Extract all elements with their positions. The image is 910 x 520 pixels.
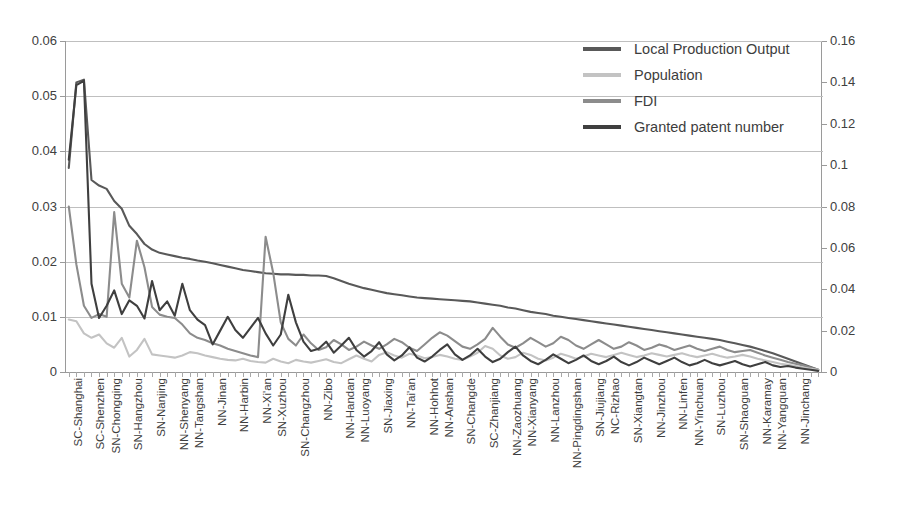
x-axis-tick-mark: [144, 372, 145, 377]
legend-label: Granted patent number: [634, 119, 784, 135]
series-line: [69, 320, 818, 370]
x-axis-baseline: [65, 372, 822, 373]
y-axis-left-tick-label: 0.04: [0, 144, 57, 157]
x-axis-tick-label: NN-Xi'an: [262, 378, 274, 424]
x-axis-tick-mark: [546, 372, 547, 377]
x-axis-tick-mark: [447, 372, 448, 377]
legend-color-swatch: [583, 47, 621, 51]
x-axis-tick-mark: [652, 372, 653, 377]
x-axis-tick-mark: [387, 372, 388, 377]
y-axis-right-tick-label: 0.16: [830, 34, 900, 47]
x-axis-tick-mark: [629, 372, 630, 377]
x-axis-tick-mark: [288, 372, 289, 377]
x-axis-tick-label: NN-Karamay: [762, 378, 774, 444]
x-axis-tick-mark: [697, 372, 698, 377]
x-axis-tick-label: SN-Shaoguan: [739, 378, 751, 450]
x-axis-tick-label: NN-Tai'an: [406, 378, 418, 428]
y-axis-right-tick-label: 0.06: [830, 241, 900, 254]
x-axis-tick-label: NN-Anshan: [444, 378, 456, 437]
x-axis-tick-mark: [129, 372, 130, 377]
x-axis-tick-mark: [296, 372, 297, 377]
x-axis-tick-mark: [743, 372, 744, 377]
y-axis-left-tick-label: 0.06: [0, 34, 57, 47]
x-axis-tick-mark: [394, 372, 395, 377]
x-axis-tick-mark: [599, 372, 600, 377]
x-axis-tick-mark: [788, 372, 789, 377]
y-axis-left-tick-label: 0.03: [0, 200, 57, 213]
y-axis-left-tick-label: 0.02: [0, 255, 57, 268]
x-axis-tick-label: NN-Linfen: [678, 378, 690, 430]
y-axis-right-tick-label: 0.02: [830, 324, 900, 337]
x-axis-tick-mark: [281, 372, 282, 377]
x-axis-tick-label: SN-Xiangtan: [633, 378, 645, 443]
x-axis-tick-mark: [818, 372, 819, 377]
x-axis-tick-mark: [606, 372, 607, 377]
x-axis-tick-mark: [311, 372, 312, 377]
x-axis-tick-mark: [803, 372, 804, 377]
y-axis-right-tick-mark: [822, 207, 827, 208]
x-axis-tick-mark: [735, 372, 736, 377]
x-axis-tick-mark: [720, 372, 721, 377]
x-axis-tick-label: NN-Jinzhou: [656, 378, 668, 438]
y-axis-right-tick-mark: [822, 289, 827, 290]
x-axis-tick-label: NN-Xianyang: [527, 378, 539, 446]
x-axis-tick-mark: [765, 372, 766, 377]
x-axis-tick-mark: [659, 372, 660, 377]
x-axis-tick-mark: [773, 372, 774, 377]
x-axis-tick-mark: [137, 372, 138, 377]
legend-item[interactable]: Population: [583, 62, 823, 88]
x-axis-tick-label: NN-Lanzhou: [550, 378, 562, 443]
x-axis-tick-mark: [364, 372, 365, 377]
x-axis-tick-label: NN-Zaozhuang: [512, 378, 524, 456]
legend-label: FDI: [634, 93, 657, 109]
y-axis-right-tick-label: 0.1: [830, 158, 900, 171]
x-axis-tick-mark: [197, 372, 198, 377]
x-axis-tick-mark: [417, 372, 418, 377]
x-axis-tick-mark: [705, 372, 706, 377]
x-axis-tick-mark: [493, 372, 494, 377]
y-axis-left-tick-label: 0: [0, 365, 57, 378]
x-axis-tick-label: SN-Chongqing: [111, 378, 123, 453]
x-axis-tick-label: SC-Zhanjiang: [489, 378, 501, 448]
x-axis-tick-mark: [727, 372, 728, 377]
y-axis-right-tick-mark: [822, 248, 827, 249]
x-axis-tick-mark: [500, 372, 501, 377]
x-axis-tick-mark: [319, 372, 320, 377]
x-axis-tick-label: SN-Luzhou: [716, 378, 728, 436]
x-axis-tick-mark: [175, 372, 176, 377]
x-axis-tick-label: NN-Hohhot: [429, 378, 441, 436]
x-axis-tick-label: SN-Changde: [466, 378, 478, 444]
x-axis-tick-mark: [432, 372, 433, 377]
y-axis-right-tick-mark: [822, 331, 827, 332]
x-axis-tick-label: NN-Shenyang: [179, 378, 191, 450]
x-axis-tick-mark: [758, 372, 759, 377]
legend-item[interactable]: Granted patent number: [583, 114, 823, 140]
x-axis-tick-mark: [682, 372, 683, 377]
x-axis-tick-mark: [644, 372, 645, 377]
x-axis-tick-label: NN-Yangquan: [777, 378, 789, 450]
x-axis-tick-mark: [690, 372, 691, 377]
x-axis-tick-mark: [584, 372, 585, 377]
legend-item[interactable]: Local Production Output: [583, 36, 823, 62]
x-axis-tick-mark: [334, 372, 335, 377]
chart-root: 00.010.020.030.040.050.06 00.020.040.060…: [0, 0, 910, 520]
y-axis-right-tick-label: 0.12: [830, 117, 900, 130]
x-axis-tick-mark: [205, 372, 206, 377]
x-axis-tick-mark: [190, 372, 191, 377]
x-axis-tick-mark: [341, 372, 342, 377]
x-axis-tick-mark: [114, 372, 115, 377]
x-axis-tick-mark: [258, 372, 259, 377]
x-axis-tick-label: SN-Jiujiang: [595, 378, 607, 437]
x-axis-tick-mark: [84, 372, 85, 377]
x-axis-tick-mark: [614, 372, 615, 377]
legend-item[interactable]: FDI: [583, 88, 823, 114]
x-axis-tick-mark: [576, 372, 577, 377]
legend-color-swatch: [583, 99, 621, 103]
x-axis-tick-mark: [485, 372, 486, 377]
x-axis-tick-label: SC-Shanghai: [73, 378, 85, 446]
x-axis-tick-mark: [379, 372, 380, 377]
x-axis-tick-mark: [266, 372, 267, 377]
y-axis-left-tick-label: 0.01: [0, 310, 57, 323]
x-axis-tick-mark: [273, 372, 274, 377]
x-axis-tick-mark: [402, 372, 403, 377]
